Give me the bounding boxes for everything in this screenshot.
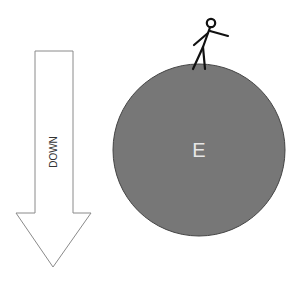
earth-label: E [192,139,205,161]
stick-figure-right-arm [210,31,228,36]
earth-sphere: E [113,64,285,236]
diagram-canvas: DOWN E [0,0,301,281]
down-arrow: DOWN [16,51,91,267]
stick-figure [193,19,228,69]
down-arrow-label: DOWN [48,136,59,168]
stick-figure-head [207,19,215,27]
